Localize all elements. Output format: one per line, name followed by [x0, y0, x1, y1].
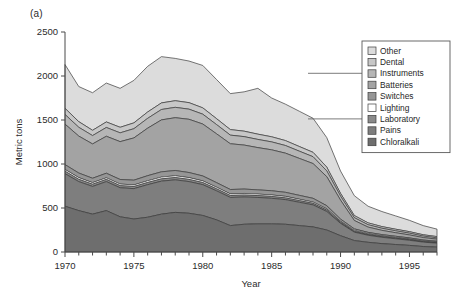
panel-label: (a) [30, 8, 43, 19]
y-axis-title: Metric tons [13, 119, 24, 166]
y-tick-label: 1500 [37, 114, 58, 125]
x-tick-label: 1985 [261, 260, 282, 271]
figure-panel-a: (a) 050010001500200025001970197519801985… [0, 0, 454, 300]
legend-swatch-chloralkali [368, 138, 376, 146]
x-tick-label: 1970 [54, 260, 75, 271]
legend-label-dental: Dental [380, 57, 404, 67]
legend-swatch-lighting [368, 104, 376, 112]
x-tick-label: 1995 [399, 260, 420, 271]
legend-swatch-other [368, 47, 376, 55]
legend-swatch-pains [368, 127, 376, 135]
x-tick-label: 1990 [330, 260, 351, 271]
legend-label-instruments: Instruments [380, 68, 424, 78]
y-tick-label: 2000 [37, 70, 58, 81]
stacked-area-chart: 0500100015002000250019701975198019851990… [0, 0, 454, 300]
legend-label-switches: Switches [380, 91, 414, 101]
legend-label-pains: Pains [380, 125, 401, 135]
legend-label-lighting: Lighting [380, 103, 410, 113]
y-tick-label: 2500 [37, 26, 58, 37]
legend-label-batteries: Batteries [380, 80, 413, 90]
y-tick-label: 500 [42, 202, 58, 213]
legend-swatch-dental [368, 58, 376, 66]
y-tick-label: 1000 [37, 158, 58, 169]
legend-swatch-laboratory [368, 115, 376, 123]
legend-swatch-switches [368, 93, 376, 101]
legend-label-other: Other [380, 46, 401, 56]
legend-swatch-batteries [368, 81, 376, 89]
x-tick-label: 1980 [192, 260, 213, 271]
legend-label-laboratory: Laboratory [380, 114, 421, 124]
legend-label-chloralkali: Chloralkali [380, 137, 419, 147]
y-tick-label: 0 [53, 246, 58, 257]
x-axis-title: Year [241, 278, 260, 289]
x-tick-label: 1975 [123, 260, 144, 271]
legend-swatch-instruments [368, 70, 376, 78]
